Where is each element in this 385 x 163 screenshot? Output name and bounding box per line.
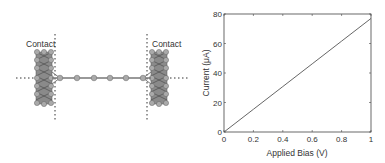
iv-chart: 00.20.40.60.81020406080 Applied Bias (V)… bbox=[200, 0, 385, 163]
right-contact-label: Contact bbox=[152, 39, 181, 49]
iv-curve bbox=[224, 18, 371, 132]
x-tick-label: 0.4 bbox=[277, 135, 289, 144]
chart-plot-area: 00.20.40.60.81020406080 Applied Bias (V)… bbox=[200, 0, 385, 163]
x-tick-label: 0.8 bbox=[336, 135, 348, 144]
y-tick-label: 80 bbox=[213, 10, 222, 19]
y-tick-label: 40 bbox=[213, 69, 222, 78]
junction-schematic: Contact Contact bbox=[0, 0, 200, 163]
right-contact-tube bbox=[149, 49, 168, 106]
y-tick-label: 60 bbox=[213, 40, 222, 49]
x-tick-label: 0.2 bbox=[248, 135, 260, 144]
x-tick-label: 0 bbox=[222, 135, 227, 144]
y-tick-label: 0 bbox=[218, 128, 223, 137]
left-contact-label: Contact bbox=[26, 39, 55, 49]
atomic-chain bbox=[52, 72, 151, 84]
junction-diagram bbox=[0, 0, 200, 163]
x-tick-label: 1 bbox=[369, 135, 374, 144]
y-axis-label: Current (μA) bbox=[201, 49, 211, 96]
x-tick-label: 0.6 bbox=[307, 135, 319, 144]
left-contact-tube bbox=[34, 49, 53, 106]
plot-frame bbox=[224, 14, 371, 132]
x-axis-label: Applied Bias (V) bbox=[267, 148, 328, 158]
y-tick-label: 20 bbox=[213, 99, 222, 108]
